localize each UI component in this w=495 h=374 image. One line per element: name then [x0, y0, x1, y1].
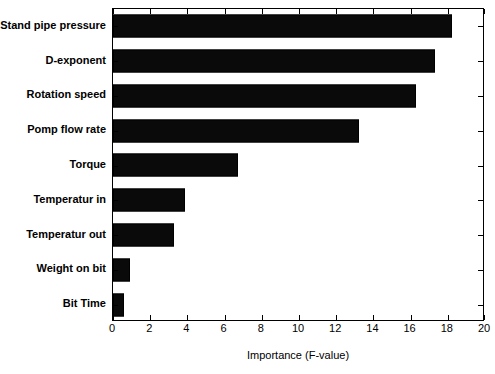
x-tick-mark-top — [484, 9, 485, 14]
y-axis-label-row: Temperatur in — [0, 182, 106, 217]
x-tick-label: 2 — [146, 323, 152, 334]
y-tick-mark-right — [478, 26, 483, 27]
y-axis-label-row: Torque — [0, 147, 106, 182]
y-tick-mark-right — [478, 235, 483, 236]
y-tick-mark-left — [113, 200, 118, 201]
x-tick-mark — [373, 315, 374, 320]
bar-slot — [113, 148, 483, 183]
x-tick-mark-top — [150, 9, 151, 14]
bar-slot — [113, 9, 483, 44]
bar — [113, 50, 435, 73]
chart-figure: Stand pipe pressureD-exponentRotation sp… — [0, 0, 495, 374]
x-tick-mark-top — [225, 9, 226, 14]
x-tick-label: 14 — [366, 323, 378, 334]
y-tick-mark-left — [113, 166, 118, 167]
x-tick-mark-top — [411, 9, 412, 14]
y-axis-label: Temperatur in — [33, 194, 106, 205]
y-tick-mark-right — [478, 131, 483, 132]
y-axis-label: Weight on bit — [37, 263, 106, 274]
bar-slot — [113, 287, 483, 322]
x-tick-label: 4 — [183, 323, 189, 334]
y-tick-mark-left — [113, 26, 118, 27]
y-axis-label-row: Stand pipe pressure — [0, 8, 106, 43]
plot-area — [112, 8, 484, 321]
x-tick-mark — [113, 315, 114, 320]
bar-slot — [113, 183, 483, 218]
y-axis-label-row: Pomp flow rate — [0, 112, 106, 147]
y-axis-label: Temperatur out — [26, 229, 106, 240]
bar-series — [113, 9, 483, 320]
x-tick-mark — [299, 315, 300, 320]
bar-slot — [113, 252, 483, 287]
bar-slot — [113, 218, 483, 253]
x-tick-label: 12 — [329, 323, 341, 334]
y-tick-mark-left — [113, 235, 118, 236]
x-tick-label: 0 — [109, 323, 115, 334]
x-tick-label: 6 — [221, 323, 227, 334]
y-tick-mark-right — [478, 305, 483, 306]
x-tick-mark — [225, 315, 226, 320]
x-axis-tick-labels: 02468101214161820 — [112, 323, 484, 339]
x-tick-label: 16 — [403, 323, 415, 334]
y-tick-mark-left — [113, 61, 118, 62]
bar — [113, 84, 416, 107]
x-tick-mark — [187, 315, 188, 320]
y-tick-mark-right — [478, 270, 483, 271]
x-tick-mark-top — [113, 9, 114, 14]
y-tick-mark-left — [113, 96, 118, 97]
y-axis-label: Stand pipe pressure — [0, 20, 106, 31]
bar-slot — [113, 44, 483, 79]
x-tick-mark-top — [262, 9, 263, 14]
x-tick-mark — [411, 315, 412, 320]
x-tick-mark-top — [187, 9, 188, 14]
y-axis-label: Pomp flow rate — [27, 124, 106, 135]
x-tick-mark-top — [448, 9, 449, 14]
y-tick-mark-right — [478, 96, 483, 97]
y-tick-mark-left — [113, 305, 118, 306]
x-tick-mark — [484, 315, 485, 320]
y-tick-mark-left — [113, 131, 118, 132]
y-axis-label: Bit Time — [63, 298, 106, 309]
bar-slot — [113, 113, 483, 148]
bar — [113, 15, 452, 38]
x-tick-label: 8 — [258, 323, 264, 334]
y-axis-label-row: Bit Time — [0, 286, 106, 321]
x-tick-label: 10 — [292, 323, 304, 334]
y-axis-label-row: Rotation speed — [0, 78, 106, 113]
x-tick-mark — [262, 315, 263, 320]
bar — [113, 224, 174, 247]
y-tick-mark-right — [478, 61, 483, 62]
y-tick-mark-right — [478, 166, 483, 167]
y-tick-mark-right — [478, 200, 483, 201]
y-tick-mark-left — [113, 270, 118, 271]
y-axis-label-row: D-exponent — [0, 43, 106, 78]
y-axis-label: D-exponent — [46, 55, 107, 66]
y-axis-label-row: Weight on bit — [0, 251, 106, 286]
x-tick-mark — [336, 315, 337, 320]
x-tick-mark-top — [373, 9, 374, 14]
x-axis-title: Importance (F-value) — [112, 350, 484, 361]
y-axis-label: Torque — [70, 159, 106, 170]
y-axis-label-row: Temperatur out — [0, 217, 106, 252]
y-axis-label: Rotation speed — [27, 89, 106, 100]
bar — [113, 119, 359, 142]
bar — [113, 154, 238, 177]
bar-slot — [113, 79, 483, 114]
x-tick-mark — [448, 315, 449, 320]
x-tick-mark-top — [299, 9, 300, 14]
x-tick-label: 20 — [478, 323, 490, 334]
x-tick-mark-top — [336, 9, 337, 14]
bar — [113, 189, 185, 212]
x-tick-label: 18 — [441, 323, 453, 334]
x-tick-mark — [150, 315, 151, 320]
y-axis-category-labels: Stand pipe pressureD-exponentRotation sp… — [0, 8, 106, 321]
